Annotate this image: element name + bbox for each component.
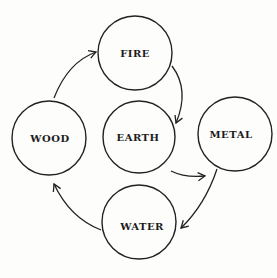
water-label: WATER: [119, 221, 164, 232]
earth-label: EARTH: [117, 132, 160, 143]
fire-label: FIRE: [120, 48, 150, 59]
five-elements-diagram: FIRE WOOD EARTH METAL WATER: [0, 0, 277, 278]
node-water: WATER: [102, 185, 176, 259]
arrow-water-to-wood: [54, 184, 101, 230]
arrow-fire-to-earth: [172, 66, 182, 123]
node-fire: FIRE: [98, 16, 172, 90]
arrow-metal-to-water: [181, 169, 217, 228]
diagram-svg: FIRE WOOD EARTH METAL WATER: [0, 0, 277, 278]
node-metal: METAL: [198, 97, 272, 171]
metal-label: METAL: [210, 129, 253, 140]
node-wood: WOOD: [12, 101, 86, 175]
wood-label: WOOD: [29, 133, 69, 144]
node-earth: EARTH: [103, 101, 175, 173]
arrow-earth-to-metal: [171, 171, 205, 176]
arrow-wood-to-fire: [54, 52, 96, 98]
